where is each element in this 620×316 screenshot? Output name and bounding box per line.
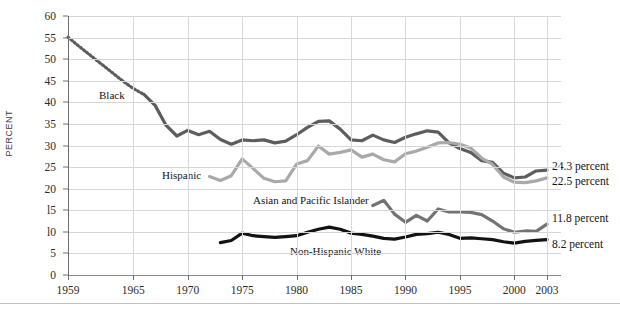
x-tick-mark — [297, 275, 298, 280]
gridline-vertical — [351, 16, 352, 275]
gridline-horizontal — [68, 124, 561, 125]
x-tick-label: 1990 — [394, 284, 417, 296]
end-label-asian: 11.8 percent — [552, 212, 608, 224]
end-label-white: 8.2 percent — [552, 238, 603, 250]
x-tick-label: 1975 — [231, 284, 254, 296]
y-axis-line — [68, 16, 69, 275]
series-path-hispanic — [210, 142, 547, 182]
gridline-horizontal — [68, 81, 561, 82]
y-tick-label: 55 — [30, 32, 56, 44]
x-tick-mark — [405, 275, 406, 280]
x-tick-mark — [242, 275, 243, 280]
y-tick-label: l0 — [30, 226, 56, 238]
gridline-horizontal — [68, 167, 561, 168]
x-tick-mark — [133, 275, 134, 280]
y-tick-label: 0 — [30, 269, 56, 281]
gridline-horizontal — [68, 16, 561, 17]
y-tick-label: 60 — [30, 10, 56, 22]
y-tick-label: 40 — [30, 96, 56, 108]
x-tick-label: 1970 — [176, 284, 199, 296]
gridline-horizontal — [68, 59, 561, 60]
series-label-black: Black — [99, 89, 125, 101]
y-tick-label: 20 — [30, 183, 56, 195]
gridline-vertical — [547, 16, 548, 275]
x-tick-label: 1995 — [448, 284, 471, 296]
y-tick-label: l5 — [30, 204, 56, 216]
gridline-vertical — [514, 16, 515, 275]
x-tick-mark — [460, 275, 461, 280]
x-tick-label: 1985 — [340, 284, 363, 296]
gridline-horizontal — [68, 146, 561, 147]
series-label-white: Non-Hispanic White — [290, 245, 381, 257]
series-path-non-hispanic-white — [220, 227, 547, 243]
x-tick-mark — [188, 275, 189, 280]
x-tick-label: 2003 — [536, 284, 559, 296]
y-tick-label: 35 — [30, 118, 56, 130]
y-tick-label: 25 — [30, 161, 56, 173]
x-tick-mark — [351, 275, 352, 280]
gridline-horizontal — [68, 253, 561, 254]
gridline-vertical — [188, 16, 189, 275]
y-tick-label: 50 — [30, 53, 56, 65]
gridline-horizontal — [68, 232, 561, 233]
y-tick-label: 5 — [30, 247, 56, 259]
gridline-horizontal — [68, 38, 561, 39]
x-tick-mark — [68, 275, 69, 280]
gridline-vertical — [405, 16, 406, 275]
x-tick-label: 1965 — [122, 284, 145, 296]
gridline-vertical — [242, 16, 243, 275]
poverty-rate-line-chart: PERCENT Black Hispanic Asian and Pacific… — [0, 0, 620, 316]
y-tick-label: 30 — [30, 140, 56, 152]
x-tick-mark — [547, 275, 548, 280]
x-tick-mark — [514, 275, 515, 280]
gridline-vertical — [133, 16, 134, 275]
end-label-hispanic: 22.5 percent — [552, 175, 609, 187]
footer-divider — [0, 303, 620, 304]
gridline-horizontal — [68, 102, 561, 103]
x-tick-label: 1959 — [57, 284, 80, 296]
end-label-black: 24.3 percent — [552, 160, 609, 172]
gridline-horizontal — [68, 189, 561, 190]
x-tick-label: 1980 — [285, 284, 308, 296]
gridline-vertical — [297, 16, 298, 275]
gridline-vertical — [460, 16, 461, 275]
x-tick-label: 2000 — [503, 284, 526, 296]
gridline-horizontal — [68, 210, 561, 211]
series-lines — [0, 0, 620, 316]
series-label-hispanic: Hispanic — [162, 169, 201, 181]
y-tick-label: 45 — [30, 75, 56, 87]
series-path-black — [144, 95, 547, 178]
x-axis-line — [68, 275, 561, 276]
